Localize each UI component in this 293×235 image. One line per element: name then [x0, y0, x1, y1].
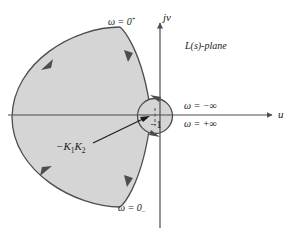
- label-omega-zero-minus: ω = 0−: [118, 203, 146, 216]
- nyquist-plot-svg: [0, 0, 293, 235]
- nyquist-figure: ω = 0+ ω = 0− jv u L(s)-plane ω = −∞ ω =…: [0, 0, 293, 235]
- label-omega-zero-plus: ω = 0+: [108, 16, 136, 27]
- label-imaginary-axis: jv: [163, 12, 171, 23]
- label-critical-point: −1: [150, 119, 162, 130]
- label-gain-point: −K1K2: [56, 141, 86, 155]
- label-gain-point-sub2: 2: [82, 146, 86, 155]
- label-omega-plus-infinity: ω = +∞: [184, 119, 217, 129]
- label-real-axis: u: [278, 109, 284, 120]
- label-plane: L(s)-plane: [185, 41, 227, 51]
- label-omega-minus-infinity: ω = −∞: [184, 101, 217, 111]
- label-omega-zero-minus-sub: −: [142, 208, 146, 215]
- label-omega-zero-plus-sup: +: [132, 15, 136, 22]
